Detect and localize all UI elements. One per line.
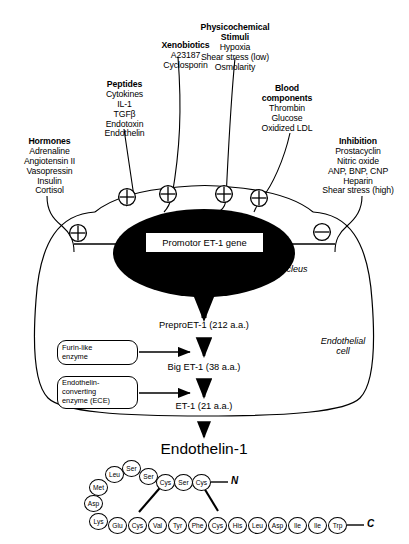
residue-asp-17: Asp [268, 517, 287, 534]
endothelin-1-title: Endothelin-1 [124, 440, 284, 458]
residue-cys-6: Cys [192, 474, 211, 491]
residue-asp-7: Asp [84, 495, 103, 512]
cascade-step-big-et1: Big ET-1 (38 a.a.) [134, 362, 274, 372]
endothelin-pathway-figure: HormonesAdrenaline Angiotensin II Vasopr… [0, 0, 409, 544]
nucleus-label: Nucleus [275, 264, 335, 274]
enzyme-box-furin: Furin-like enzyme [57, 340, 138, 365]
residue-his-15: His [228, 517, 247, 534]
residue-cys-4: Cys [156, 474, 175, 491]
sign-plus-hormones [70, 225, 87, 242]
sign-minus-inhibition [314, 224, 331, 241]
stimulus-items-physicochemical: Hypoxia Shear stress (low) Osmolarity [201, 42, 269, 72]
residue-ser-5: Ser [174, 474, 193, 491]
cascade-step-preproet1: PreproET-1 (212 a.a.) [129, 320, 279, 330]
residue-tyr-12: Tyr [168, 517, 187, 534]
stimulus-block-peptides: PeptidesCytokines IL-1 TGFβ Endotoxin En… [82, 70, 167, 139]
nuclear-envelope-right [230, 187, 313, 212]
stimulus-block-blood-components: Blood componentsThrombin Glucose Oxidize… [243, 74, 331, 133]
stimulus-items-peptides: Cytokines IL-1 TGFβ Endotoxin Endothelin [104, 89, 144, 139]
residue-ile-19: Ile [308, 517, 327, 534]
residue-cys-10: Cys [128, 517, 147, 534]
promoter-gene-label: Promotor ET-1 gene [162, 237, 246, 248]
stimulus-heading-blood-components: Blood components [243, 84, 331, 104]
residue-val-11: Val [148, 517, 167, 534]
residue-ile-18: Ile [288, 517, 307, 534]
stimulus-items-inhibition: Prostacyclin Nitric oxide ANP, BNP, CNP … [322, 146, 394, 196]
residue-phe-13: Phe [188, 517, 207, 534]
diagram-vector-layer [0, 0, 409, 544]
connector-inhibition [335, 196, 362, 252]
sign-plus-xenobiotics [160, 186, 177, 203]
enzyme-box-ece: Endothelin- converting enzyme (ECE) [57, 376, 138, 409]
residue-lys-8: Lys [89, 513, 108, 530]
stimulus-items-blood-components: Thrombin Glucose Oxidized LDL [262, 103, 313, 133]
sign-plus-blood-components [251, 190, 268, 207]
stimulus-items-hormones: Adrenaline Angiotensin II Vasopressin In… [24, 146, 75, 196]
promoter-gene-box: Promotor ET-1 gene [146, 233, 263, 252]
stimulus-block-physicochemical: Physicochemical StimuliHypoxia Shear str… [179, 13, 291, 72]
residue-cys-14: Cys [208, 517, 227, 534]
sign-plus-peptides [119, 189, 136, 206]
connector-hormones [47, 196, 74, 252]
nucleus-ellipse [113, 209, 295, 297]
residue-leu-16: Leu [248, 517, 267, 534]
stimulus-block-inhibition: InhibitionProstacyclin Nitric oxide ANP,… [307, 127, 409, 196]
c-terminus-label: C [367, 518, 374, 529]
residue-met-2: Met [89, 479, 108, 496]
sign-plus-physicochemical [216, 186, 233, 203]
cascade-step-et1: ET-1 (21 a.a.) [139, 401, 269, 411]
stimulus-heading-physicochemical: Physicochemical Stimuli [179, 23, 291, 43]
residue-glu-9: Glu [108, 517, 127, 534]
n-terminus-label: N [231, 475, 238, 486]
residue-trp-20: Trp [328, 517, 347, 534]
endothelial-cell-label: Endothelial cell [308, 336, 378, 357]
